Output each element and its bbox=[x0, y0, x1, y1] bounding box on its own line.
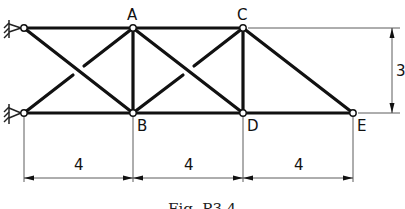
dimension-span-1: 4 bbox=[74, 156, 84, 174]
node-label-c: C bbox=[237, 6, 247, 24]
node-label-e: E bbox=[357, 117, 366, 135]
dimension-span-3: 4 bbox=[294, 156, 304, 174]
truss-diagram: A B C D E 3 4 4 4 Fig. P3.4 bbox=[0, 0, 405, 209]
support-bottom-left bbox=[4, 104, 21, 124]
node-label-a: A bbox=[127, 6, 138, 24]
support-top-left bbox=[4, 20, 21, 38]
vertical-dimension bbox=[248, 28, 400, 113]
node-label-d: D bbox=[247, 117, 259, 135]
dimension-span-2: 4 bbox=[184, 156, 194, 174]
truss-members bbox=[24, 28, 353, 113]
node-label-b: B bbox=[137, 117, 147, 135]
dimension-height: 3 bbox=[396, 62, 405, 80]
figure-caption: Fig. P3.4 bbox=[168, 200, 236, 209]
